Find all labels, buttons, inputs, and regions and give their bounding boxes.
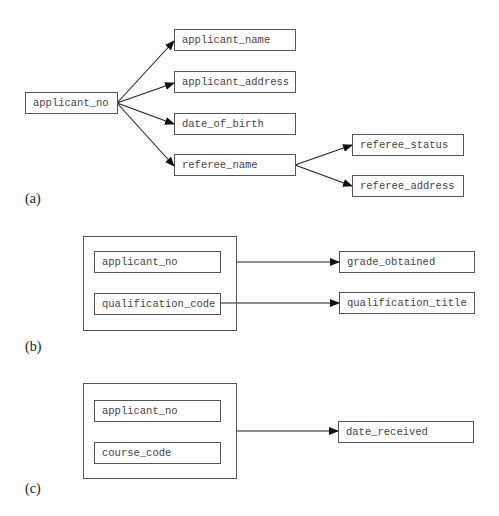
attribute-qualification-title: qualification_title — [339, 292, 475, 314]
entity-applicant-no: applicant_no — [25, 92, 118, 114]
attribute-applicant-address: applicant_address — [174, 71, 296, 93]
attribute-date-received: date_received — [338, 421, 474, 443]
attribute-referee-address: referee_address — [352, 175, 464, 197]
arrow-referee-name-to-referee-status — [295, 145, 352, 165]
attribute-referee-status: referee_status — [352, 134, 464, 156]
arrow-applicant-no-to-date-of-birth — [117, 103, 174, 124]
key-applicant-no-c: applicant_no — [94, 400, 221, 422]
key-course-code: course_code — [94, 442, 221, 464]
composite-key-group-c — [83, 383, 237, 479]
attribute-referee-name: referee_name — [174, 154, 296, 176]
diagram-label-b: (b) — [25, 339, 41, 355]
arrow-applicant-no-to-applicant-name — [117, 41, 174, 103]
key-applicant-no-b: applicant_no — [94, 251, 221, 273]
attribute-applicant-name: applicant_name — [174, 29, 296, 51]
diagram-label-a: (a) — [25, 191, 41, 207]
diagram-label-c: (c) — [25, 481, 41, 497]
key-qualification-code: qualification_code — [94, 293, 221, 315]
arrow-applicant-no-to-referee-name — [117, 103, 174, 166]
attribute-grade-obtained: grade_obtained — [339, 251, 475, 273]
attribute-date-of-birth: date_of_birth — [174, 113, 296, 135]
arrow-referee-name-to-referee-address — [295, 165, 352, 186]
